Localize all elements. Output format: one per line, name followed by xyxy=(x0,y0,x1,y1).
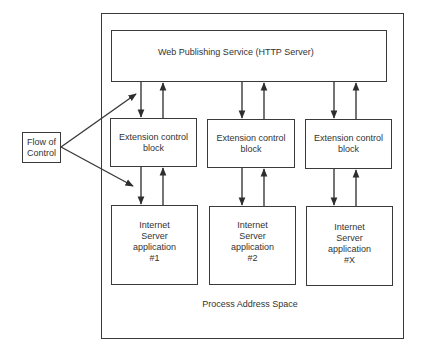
connector-arrows xyxy=(0,0,421,357)
arrow-flow-of-control-upper xyxy=(61,94,136,147)
arrow-flow-of-control-lower xyxy=(61,147,133,186)
